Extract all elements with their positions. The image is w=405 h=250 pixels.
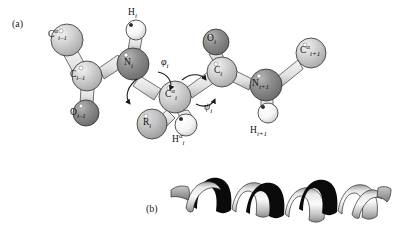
- atom-label-h_i: Hi: [128, 8, 137, 20]
- atom-r_i: [137, 109, 167, 139]
- atom-n_i: [117, 48, 149, 80]
- dihedral-label-phi: φi: [161, 56, 169, 70]
- atom-h_i: [126, 20, 146, 40]
- atom-label-o_i: Oi: [207, 34, 216, 46]
- atom-label-o_im1: Oi–1: [70, 108, 86, 120]
- atom-label-r_i: Ri: [143, 118, 151, 130]
- helix-end-cap-right: [377, 187, 391, 202]
- panel-a-tag: (a): [12, 18, 23, 29]
- dihedral-label-psi: ψi: [204, 101, 212, 115]
- atom-label-ca_im1: Cαi–1: [48, 28, 67, 42]
- atom-label-c_im1: Ci–1: [70, 70, 85, 82]
- atom-label-ca_i: Cαi: [165, 88, 177, 102]
- atom-label-ha_i: Hαi: [172, 133, 185, 147]
- atom-label-n_i: Ni: [124, 58, 133, 70]
- atom-label-n_ip1: Ni+1: [252, 79, 269, 91]
- atom-label-c_i: Ci: [214, 66, 222, 78]
- panel-b-tag: (b): [146, 203, 158, 214]
- helix-front-turn-left: [186, 182, 221, 212]
- alpha-helix-ribbon: [171, 178, 391, 222]
- atom-h_ip1: [258, 103, 278, 123]
- atom-label-h_ip1: Hi+1: [250, 126, 267, 138]
- helix-end-cap-left: [171, 186, 190, 200]
- atom-label-ca_ip1: Cαi+1: [300, 44, 320, 58]
